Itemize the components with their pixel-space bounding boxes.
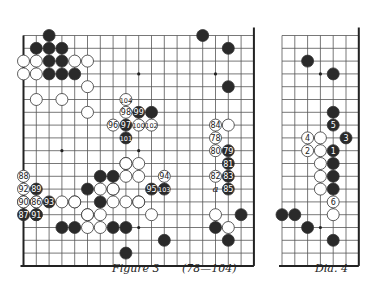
white-stone [82, 222, 94, 234]
black-stone [146, 106, 158, 118]
white-stone [133, 170, 145, 182]
black-stone [222, 81, 234, 93]
white-stone [94, 222, 106, 234]
move-number: 100 [132, 122, 144, 130]
black-stone [289, 209, 301, 221]
black-stone [210, 222, 222, 234]
figure3-caption: Figure 3 [112, 262, 160, 275]
black-stone [56, 222, 68, 234]
white-stone [314, 158, 326, 170]
black-stone [94, 170, 106, 182]
move-number: 1 [331, 147, 336, 156]
white-stone [69, 196, 81, 208]
move-number: 6 [331, 198, 336, 207]
white-stone [82, 209, 94, 221]
black-stone [43, 42, 55, 54]
move-number: 93 [44, 198, 54, 207]
white-stone [82, 81, 94, 93]
white-stone [146, 209, 158, 221]
move-number: 98 [121, 108, 131, 117]
white-stone [314, 170, 326, 182]
white-stone [222, 119, 234, 131]
white-stone [56, 94, 68, 106]
move-number: 95 [146, 185, 156, 194]
white-stone [314, 145, 326, 157]
black-stone [302, 222, 314, 234]
black-stone [69, 68, 81, 80]
black-stone [69, 222, 81, 234]
black-stone [107, 170, 119, 182]
white-stone [30, 68, 42, 80]
black-stone [107, 222, 119, 234]
white-stone [133, 196, 145, 208]
move-number: 84 [210, 121, 220, 130]
white-stone [120, 170, 132, 182]
white-stone [120, 196, 132, 208]
move-number: 97 [121, 121, 131, 130]
move-number: 91 [31, 211, 41, 220]
black-stone [276, 209, 288, 221]
move-number: 79 [223, 147, 233, 156]
white-stone [69, 55, 81, 67]
move-number: 101 [120, 135, 132, 143]
move-number: 3 [343, 134, 348, 143]
black-stone [30, 42, 42, 54]
move-number: 2 [305, 147, 310, 156]
black-stone [43, 30, 55, 42]
move-number: 88 [18, 172, 28, 181]
white-stone [120, 158, 132, 170]
move-number: 4 [305, 134, 310, 143]
move-number: 78 [210, 134, 220, 143]
white-stone [94, 209, 106, 221]
move-number: 83 [223, 172, 233, 181]
white-stone [222, 222, 234, 234]
black-stone [82, 183, 94, 195]
move-number: 92 [18, 185, 28, 194]
black-stone [56, 55, 68, 67]
black-stone [302, 55, 314, 67]
white-stone [82, 55, 94, 67]
white-stone [314, 132, 326, 144]
black-stone [120, 222, 132, 234]
black-stone [235, 209, 247, 221]
white-stone [82, 106, 94, 118]
move-number: 103 [158, 186, 170, 194]
white-stone [18, 55, 30, 67]
black-stone [327, 183, 339, 195]
move-number: 104 [120, 97, 132, 105]
black-stone [197, 30, 209, 42]
move-number: 86 [31, 198, 41, 207]
white-stone [94, 183, 106, 195]
black-stone [56, 42, 68, 54]
white-stone [18, 68, 30, 80]
black-stone [327, 106, 339, 118]
move-number: 85 [223, 185, 233, 194]
white-stone [30, 94, 42, 106]
dia4-board: 543216 [276, 28, 359, 266]
move-number: 99 [134, 108, 144, 117]
black-stone [327, 234, 339, 246]
move-number: 96 [108, 121, 118, 130]
white-stone [314, 183, 326, 195]
figure3-move-range: (78—104) [182, 262, 237, 275]
point-label: a [213, 183, 219, 194]
black-stone [158, 234, 170, 246]
move-number: 87 [18, 211, 28, 220]
move-number: 82 [210, 172, 220, 181]
white-stone [133, 158, 145, 170]
move-number: 5 [331, 121, 336, 130]
move-number: 81 [223, 160, 233, 169]
black-stone [327, 170, 339, 182]
move-number: 94 [159, 172, 169, 181]
white-stone [210, 209, 222, 221]
figure3-board: 1049899969710010210184787980818283859495… [18, 28, 254, 266]
black-stone [327, 158, 339, 170]
black-stone [94, 196, 106, 208]
black-stone [56, 68, 68, 80]
black-stone [120, 247, 132, 259]
black-stone [222, 234, 234, 246]
black-stone [327, 68, 339, 80]
white-stone [327, 209, 339, 221]
black-stone [43, 55, 55, 67]
move-number: 102 [145, 122, 157, 130]
